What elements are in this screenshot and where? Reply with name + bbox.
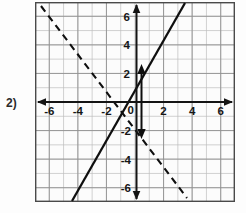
problem-number-label: 2) xyxy=(6,96,17,110)
x-tick-label: -6 xyxy=(44,105,54,117)
x-tick-label: 6 xyxy=(218,105,224,117)
y-tick-label: 2 xyxy=(124,68,130,80)
worksheet-graph-panel: 2) xyxy=(0,0,246,213)
x-tick-label: -4 xyxy=(73,105,84,117)
y-tick-label: -6 xyxy=(121,182,131,194)
origin-label: 0 xyxy=(128,104,134,116)
y-tick-label: 4 xyxy=(124,39,131,51)
x-tick-label: -2 xyxy=(101,105,111,117)
y-tick-label: -4 xyxy=(121,154,132,166)
y-tick-label: 6 xyxy=(124,11,130,23)
x-tick-label: 4 xyxy=(189,105,196,117)
coordinate-plane-svg: -6 -4 -2 2 4 6 6 4 2 -2 -4 -6 0 xyxy=(35,2,235,202)
x-tick-label: 2 xyxy=(160,105,166,117)
y-tick-label: -2 xyxy=(121,125,131,137)
graph-container: -6 -4 -2 2 4 6 6 4 2 -2 -4 -6 0 xyxy=(35,2,235,202)
